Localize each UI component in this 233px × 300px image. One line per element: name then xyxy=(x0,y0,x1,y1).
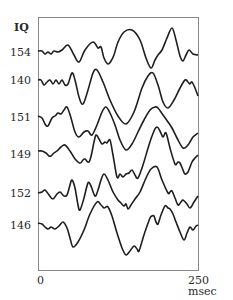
waveform-trace-iq-151 xyxy=(38,107,198,150)
x-tick-start: 0 xyxy=(37,275,44,286)
waveform-trace-iq-140 xyxy=(38,69,198,124)
waveform-trace-iq-152 xyxy=(38,166,198,210)
waveform-trace-iq-154 xyxy=(38,28,198,68)
plot-frame xyxy=(39,18,199,271)
waveform-plot xyxy=(0,0,233,300)
waveform-trace-iq-146 xyxy=(38,202,198,255)
waveform-traces xyxy=(38,28,198,255)
x-tick-end: 250 msec xyxy=(188,275,233,297)
